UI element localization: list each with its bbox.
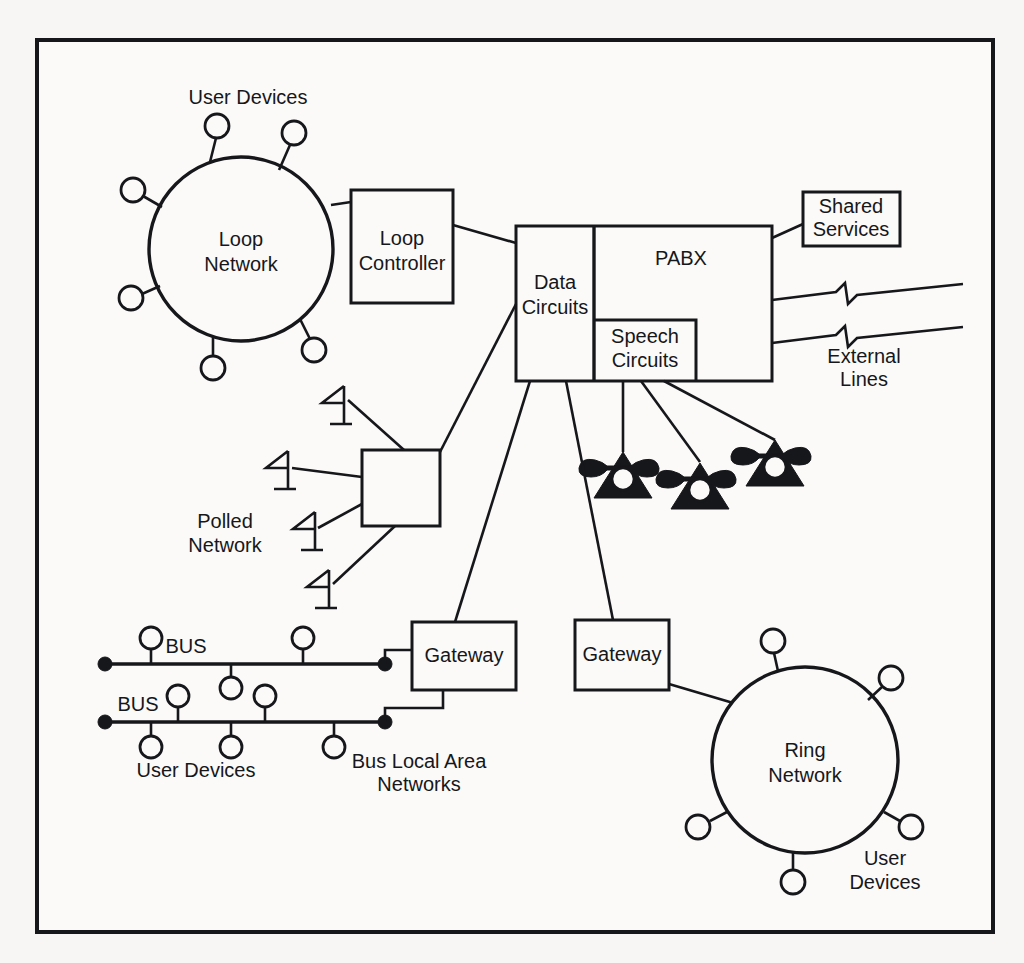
shared-services-label-line1: Shared [819,195,884,217]
ring-network-label-line1: Ring [784,739,825,761]
bus-bottom-device-1[interactable] [167,685,189,707]
polled-network-box[interactable] [362,450,440,526]
user-devices-loop-label: User Devices [189,86,308,108]
speech-circuits-label-line2: Circuits [612,349,679,371]
ring-user-device-2[interactable] [879,666,903,690]
bus-lan-label-line2: Networks [377,773,460,795]
user-devices-ring-label-line1: User [864,847,907,869]
shared-services-group[interactable]: Shared Services [803,192,900,246]
bus-top-terminator-left [98,657,112,671]
ring-user-device-1[interactable] [761,629,785,653]
bus-bottom-device-3[interactable] [140,736,162,758]
loop-controller-group[interactable]: Loop Controller [351,190,453,303]
network-diagram-root: Loop Network User Devices Loop [0,0,1024,963]
bus-top-device-1[interactable] [140,627,162,649]
loop-controller-label-line2: Controller [359,252,446,274]
external-lines-label-line2: Lines [840,368,888,390]
bus-lan-label-line1: Bus Local Area [352,750,487,772]
user-devices-bus-label: User Devices [137,759,256,781]
ring-user-device-4[interactable] [899,815,923,839]
loop-network-label-line1: Loop [219,228,264,250]
bus-bottom-device-4[interactable] [220,736,242,758]
bus-bottom-device-5[interactable] [323,736,345,758]
ring-user-device-3[interactable] [686,815,710,839]
polled-network-label-line2: Network [188,534,262,556]
speech-circuits-label-line1: Speech [611,325,679,347]
user-devices-ring-label-line2: Devices [849,871,920,893]
network-topology-diagram: Loop Network User Devices Loop [0,0,1024,963]
ring-network-label-line2: Network [768,764,842,786]
loop-user-device-3[interactable] [121,178,145,202]
bus-top-label: BUS [165,635,206,657]
loop-network-label-line2: Network [204,253,278,275]
bus-bottom-label: BUS [117,693,158,715]
data-circuits-label-line1: Data [534,271,577,293]
gateway-right-label: Gateway [583,643,662,665]
gateway-left-label: Gateway [425,644,504,666]
ring-user-device-5[interactable] [781,870,805,894]
external-lines-label-line1: External [827,345,900,367]
pabx-label: PABX [655,247,707,269]
shared-services-label-line2: Services [813,218,890,240]
loop-user-device-2[interactable] [282,121,306,145]
loop-user-device-1[interactable] [205,114,229,138]
loop-user-device-4[interactable] [119,286,143,310]
loop-controller-label-line1: Loop [380,227,425,249]
loop-user-device-5[interactable] [201,356,225,380]
bus-bottom-device-2[interactable] [254,685,276,707]
bus-bottom-terminator-left [98,715,112,729]
polled-network-label-line1: Polled [197,510,253,532]
data-circuits-label-line2: Circuits [522,296,589,318]
loop-user-device-6[interactable] [302,338,326,362]
bus-top-device-2[interactable] [292,627,314,649]
pabx-assembly-group[interactable]: Data Circuits PABX Speech Circuits [516,226,772,381]
bus-top-device-3[interactable] [220,677,242,699]
